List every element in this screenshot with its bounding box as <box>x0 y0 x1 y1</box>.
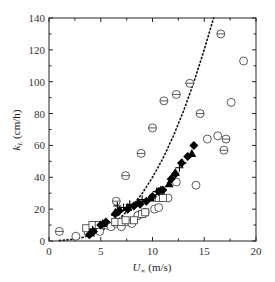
x-tick-label: 5 <box>98 245 104 257</box>
y-tick-label: 60 <box>34 139 46 151</box>
y-tick-label: 0 <box>40 235 46 247</box>
y-tick-label: 80 <box>34 108 46 120</box>
x-tick-label: 15 <box>199 245 211 257</box>
x-tick-label: 0 <box>46 245 52 257</box>
y-tick-label: 20 <box>34 203 46 215</box>
x-tick-label: 20 <box>251 245 263 257</box>
scatter-chart: 05101520020406080100120140 U∞ (m/s) kL (… <box>0 0 275 282</box>
y-tick-label: 120 <box>29 44 46 56</box>
y-tick-label: 140 <box>29 12 46 24</box>
tick-labels: 05101520020406080100120140 <box>29 12 263 257</box>
x-axis-label: U∞ (m/s) <box>133 261 172 275</box>
x-tick-label: 10 <box>147 245 159 257</box>
y-tick-label: 100 <box>29 76 46 88</box>
y-tick-label: 40 <box>34 171 46 183</box>
y-axis-label: kL (cm/h) <box>10 109 24 150</box>
data-points <box>55 30 247 240</box>
